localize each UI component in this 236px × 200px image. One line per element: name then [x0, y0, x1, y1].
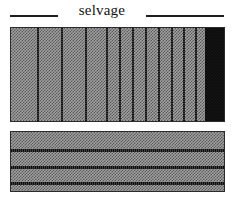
caption-label: selvage: [60, 0, 144, 20]
weft-swatch-panel: [10, 131, 225, 192]
caption-row: selvage: [0, 0, 236, 25]
warp-stripe: [106, 28, 108, 121]
caption-rule-right: [146, 15, 224, 17]
warp-stripe: [119, 28, 121, 121]
warp-stripe: [145, 28, 147, 121]
weft-band: [11, 182, 224, 185]
warp-stripe: [183, 28, 185, 121]
selvage-band: [205, 28, 224, 121]
warp-stripe: [158, 28, 160, 121]
weft-band: [11, 166, 224, 169]
weave-texture: [11, 28, 224, 121]
warp-stripe: [132, 28, 134, 121]
warp-stripe: [37, 28, 39, 121]
weft-band: [11, 149, 224, 152]
caption-rule-left: [10, 15, 58, 17]
warp-stripe: [171, 28, 173, 121]
selvage-weaving-diagram: selvage: [0, 0, 236, 200]
warp-stripe: [61, 28, 63, 121]
warp-swatch-panel: [10, 27, 225, 122]
warp-stripe: [195, 28, 197, 121]
warp-stripe: [85, 28, 87, 121]
